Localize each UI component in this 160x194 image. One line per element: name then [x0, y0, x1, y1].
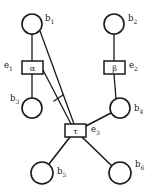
- edge-group: [32, 31, 116, 166]
- label-b5: b5: [57, 166, 66, 178]
- node-tau-glyph: τ: [73, 127, 78, 136]
- label-b6: b6: [135, 159, 144, 171]
- node-alpha-glyph: α: [30, 64, 36, 73]
- node-b1[interactable]: [22, 14, 42, 34]
- node-b2[interactable]: [104, 14, 124, 34]
- edge-tau-b6: [82, 137, 112, 166]
- node-b3[interactable]: [22, 98, 42, 118]
- node-beta-glyph: β: [112, 64, 117, 73]
- label-e3: e3: [91, 124, 100, 136]
- node-b5[interactable]: [31, 162, 53, 184]
- edge-tau-b5: [49, 137, 70, 164]
- edge-tau-b4: [86, 113, 111, 126]
- label-e1: e1: [4, 60, 13, 72]
- circle-label-group: b1 b2 b3 b4 b5 b6: [10, 13, 144, 178]
- edge-beta-b4: [114, 74, 116, 99]
- label-b1: b1: [45, 13, 54, 25]
- label-b2: b2: [128, 13, 137, 25]
- edge-b1-tau: [40, 31, 74, 124]
- label-b4: b4: [134, 103, 143, 115]
- diagram-canvas: b1 b2 b3 b4 b5 b6 α β: [0, 0, 160, 194]
- node-b4[interactable]: [110, 98, 130, 118]
- node-b6[interactable]: [109, 162, 131, 184]
- graph-svg: b1 b2 b3 b4 b5 b6 α β: [0, 0, 160, 194]
- label-b3: b3: [10, 93, 19, 105]
- label-e2: e2: [129, 60, 138, 72]
